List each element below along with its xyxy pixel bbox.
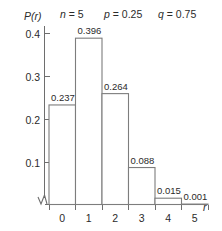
y-axis-label: P(r)	[24, 10, 42, 22]
x-axis-ticks	[49, 205, 208, 211]
y-tick-label-0.3: 0.3	[25, 71, 40, 83]
binomial-distribution-chart: n = 5 p = 0.25 q = 0.75 P(r) r 0.4 0.3 0…	[0, 0, 222, 231]
annotation-n: n = 5	[60, 8, 84, 20]
y-tick-label-0.1: 0.1	[25, 157, 40, 169]
bar-r-4	[155, 198, 182, 204]
annotation-n-eq: = 5	[66, 8, 84, 20]
y-tick-label-0.4: 0.4	[25, 28, 40, 40]
bar-series	[49, 38, 208, 204]
x-tick-label-4: 4	[165, 212, 171, 224]
value-label-r-2: 0.264	[104, 81, 128, 92]
bar-r-2	[102, 94, 129, 205]
x-tick-label-3: 3	[139, 212, 145, 224]
bar-r-1	[76, 38, 103, 204]
bar-r-0	[49, 105, 76, 205]
x-tick-label-1: 1	[86, 212, 92, 224]
annotation-q: q = 0.75	[158, 8, 196, 20]
x-axis-tick-labels: 0 1 2 3 4 5	[59, 212, 198, 224]
x-tick-label-0: 0	[59, 212, 65, 224]
value-label-r-3: 0.088	[131, 155, 155, 166]
x-tick-label-2: 2	[112, 212, 118, 224]
axis-break-icon	[38, 195, 47, 204]
y-axis-tick-labels: 0.4 0.3 0.2 0.1	[25, 28, 40, 169]
bar-r-3	[129, 168, 156, 205]
x-axis-label: r	[203, 201, 207, 213]
value-label-r-1: 0.396	[78, 25, 102, 36]
x-tick-label-5: 5	[192, 212, 198, 224]
annotation-q-eq: = 0.75	[164, 8, 197, 20]
annotation-p: p = 0.25	[103, 8, 142, 20]
value-label-r-0: 0.237	[51, 92, 75, 103]
value-label-r-4: 0.015	[157, 185, 181, 196]
value-label-r-5: 0.001	[184, 191, 208, 202]
y-tick-label-0.2: 0.2	[25, 114, 40, 126]
annotation-p-eq: = 0.25	[110, 8, 143, 20]
chart-canvas: n = 5 p = 0.25 q = 0.75 P(r) r 0.4 0.3 0…	[0, 0, 222, 231]
